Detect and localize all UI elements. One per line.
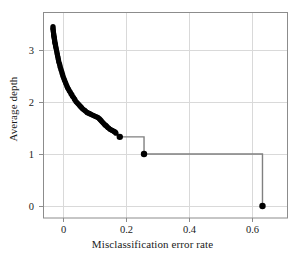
scatter-plot-figure: [0, 0, 305, 262]
plot-background: [43, 12, 288, 218]
x-tick-label-0-4: 0.4: [170, 225, 210, 235]
step-node-point: [141, 151, 147, 157]
x-tick-label-0-6: 0.6: [233, 225, 273, 235]
y-axis-title-container: Average depth: [2, 0, 24, 218]
chart-screenshot: 3 2 1 0 0 0.2 0.4 0.6 Misclassification …: [0, 0, 305, 262]
x-axis-title: Misclassification error rate: [0, 238, 305, 250]
y-axis-title: Average depth: [7, 77, 19, 142]
step-node-point: [117, 134, 123, 140]
y-axis-ticks: [39, 51, 43, 207]
x-tick-label-0-2: 0.2: [107, 225, 147, 235]
x-axis-ticks: [64, 218, 253, 222]
step-node-point: [259, 203, 265, 209]
x-tick-label-0: 0: [44, 225, 84, 235]
